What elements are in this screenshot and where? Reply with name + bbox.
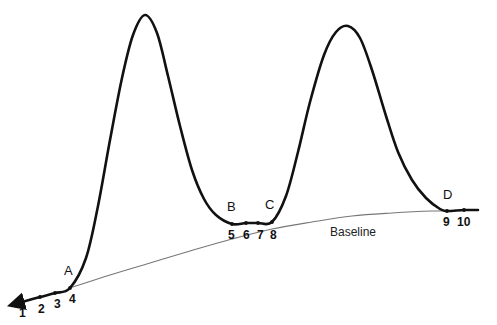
- marker-dot-1: [20, 300, 24, 304]
- marker-dot-8: [270, 220, 274, 224]
- marker-dot-6: [244, 221, 248, 225]
- tick-label-10: 10: [457, 216, 470, 228]
- baseline-text-label: Baseline: [330, 226, 376, 238]
- tick-label-7: 7: [257, 229, 264, 241]
- tick-label-3: 3: [54, 298, 61, 310]
- chromatogram-plot: [0, 0, 497, 325]
- chromatogram-figure: ABCD 12345678910 Baseline: [0, 0, 497, 325]
- tick-label-9: 9: [443, 216, 450, 228]
- point-label-d: D: [443, 188, 452, 201]
- marker-dot-10: [462, 208, 466, 212]
- marker-dot-5: [230, 222, 234, 226]
- tick-label-6: 6: [243, 229, 250, 241]
- marker-dot-2: [38, 295, 42, 299]
- marker-dot-7: [256, 221, 260, 225]
- signal-curve: [22, 15, 478, 302]
- tick-label-8: 8: [270, 229, 277, 241]
- marker-dot-9: [445, 209, 449, 213]
- point-label-b: B: [227, 200, 236, 213]
- tick-label-4: 4: [69, 293, 76, 305]
- marker-dot-4: [68, 286, 72, 290]
- point-label-a: A: [64, 264, 73, 277]
- tick-label-2: 2: [38, 303, 45, 315]
- marker-dot-3: [53, 291, 57, 295]
- point-label-c: C: [265, 198, 274, 211]
- tick-label-1: 1: [19, 307, 26, 319]
- tick-label-5: 5: [228, 229, 235, 241]
